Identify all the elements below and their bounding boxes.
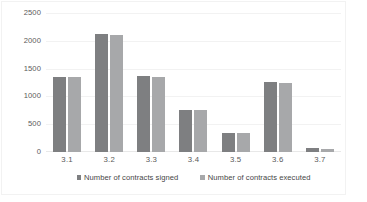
bar <box>306 148 319 152</box>
bar <box>237 133 250 152</box>
bar <box>264 82 277 152</box>
bar <box>321 149 334 152</box>
bar <box>179 110 192 152</box>
x-tick-label: 3.3 <box>130 155 172 164</box>
y-tick-label: 1000 <box>24 93 41 101</box>
bar <box>222 133 235 152</box>
x-tick-label: 3.5 <box>215 155 257 164</box>
legend-swatch-icon <box>77 175 82 180</box>
x-tick-label: 3.6 <box>257 155 299 164</box>
x-tick-label: 3.7 <box>299 155 341 164</box>
x-axis-labels: 3.13.23.33.43.53.63.7 <box>46 155 341 164</box>
bar-group <box>172 13 214 152</box>
y-tick-label: 0 <box>37 148 41 156</box>
bar <box>110 35 123 152</box>
y-tick-label: 500 <box>28 120 41 128</box>
bar <box>137 76 150 152</box>
x-tick-label: 3.2 <box>88 155 130 164</box>
bar-groups <box>46 13 341 152</box>
y-tick-label: 2000 <box>24 37 41 45</box>
bar-group <box>88 13 130 152</box>
x-tick-label: 3.4 <box>172 155 214 164</box>
bar-group <box>257 13 299 152</box>
bar-chart: 2500 2000 1500 1000 500 0 3.13.23.33.43.… <box>0 0 367 202</box>
legend-label: Number of contracts signed <box>84 173 178 182</box>
chart-legend: Number of contracts signedNumber of cont… <box>46 173 341 182</box>
legend-label: Number of contracts executed <box>208 173 311 182</box>
y-axis-labels: 2500 2000 1500 1000 500 0 <box>8 13 41 152</box>
y-tick-label: 1500 <box>24 65 41 73</box>
legend-swatch-icon <box>200 175 205 180</box>
bar-group <box>215 13 257 152</box>
bar-group <box>130 13 172 152</box>
bar-group <box>299 13 341 152</box>
legend-item[interactable]: Number of contracts signed <box>77 173 179 182</box>
x-tick-label: 3.1 <box>46 155 88 164</box>
legend-item[interactable]: Number of contracts executed <box>200 173 310 182</box>
bar <box>95 34 108 152</box>
bar <box>194 110 207 152</box>
bar <box>279 83 292 153</box>
y-tick-label: 2500 <box>24 9 41 17</box>
bar <box>53 77 66 152</box>
bar-group <box>46 13 88 152</box>
bar <box>152 77 165 152</box>
bar <box>68 77 81 152</box>
